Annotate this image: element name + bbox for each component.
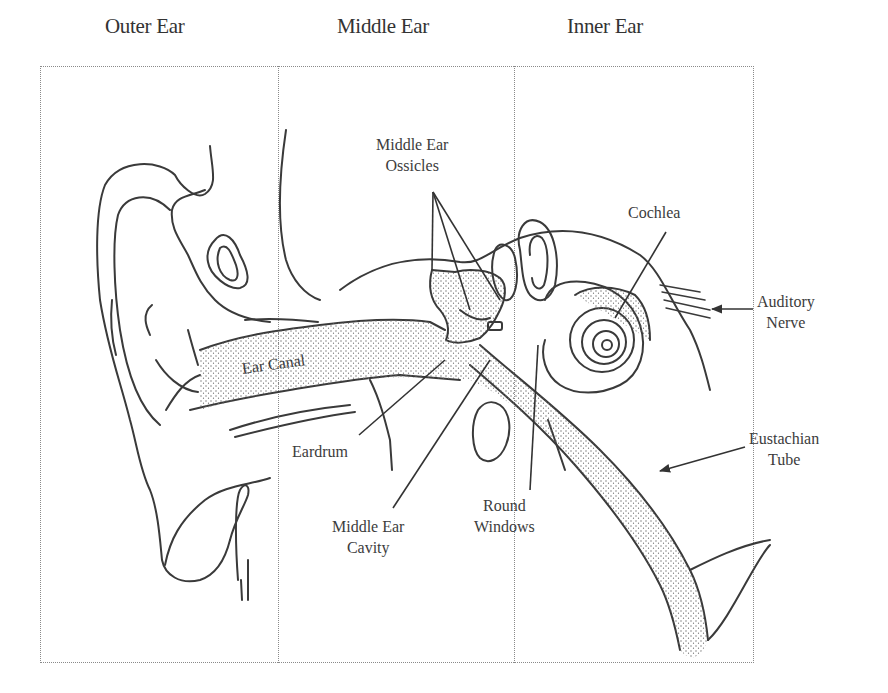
leader-eustachian-tube (660, 447, 745, 471)
middle-ear-cavity-fill (430, 322, 708, 657)
label-cochlea: Cochlea (628, 202, 680, 223)
leader-middle-ear-cavity (393, 360, 490, 508)
leader-ossicles-1 (432, 192, 433, 270)
label-eustachian-tube: Eustachian Tube (749, 428, 819, 470)
ear-canal-fill (200, 320, 460, 410)
ear-anatomy-illustration (0, 0, 888, 693)
label-middle-ear-ossicles: Middle Ear Ossicles (376, 134, 448, 176)
label-eardrum: Eardrum (292, 441, 348, 462)
label-round-windows: Round Windows (474, 495, 535, 537)
concha-loop (207, 235, 247, 288)
cochlea-shape (543, 282, 650, 393)
label-auditory-nerve: Auditory Nerve (757, 291, 815, 333)
label-middle-ear-cavity: Middle Ear Cavity (332, 516, 404, 558)
